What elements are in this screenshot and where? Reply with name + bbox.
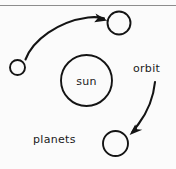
solar-system-diagram: sun orbit planets	[0, 0, 176, 169]
planets-label: planets	[33, 133, 76, 146]
orbit-arrow-upper-left-path	[26, 17, 105, 59]
planet-left-circle	[10, 60, 25, 75]
planet-top-right-circle	[108, 12, 131, 35]
diagram-canvas: sun orbit planets	[0, 0, 176, 169]
sun-label: sun	[76, 75, 97, 88]
orbit-arrow-right	[130, 82, 155, 135]
orbit-label: orbit	[133, 62, 160, 75]
orbit-arrow-right-path	[133, 82, 155, 132]
orbit-arrow-upper-left	[26, 14, 108, 60]
planet-bottom-right-circle	[103, 131, 128, 156]
